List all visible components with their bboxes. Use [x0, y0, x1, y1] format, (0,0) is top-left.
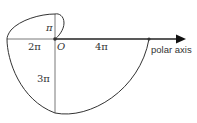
label-pi: π — [45, 22, 53, 33]
label-2pi: 2π — [28, 41, 41, 52]
arrowhead-icon — [176, 35, 186, 44]
spiral-diagram: π 2π O 4π 3π polar axis — [0, 0, 197, 123]
origin-label: O — [57, 41, 65, 52]
point-4pi — [147, 37, 150, 40]
label-3pi: 3π — [37, 73, 50, 84]
polar-axis-label: polar axis — [151, 44, 192, 55]
spiral-curve — [7, 14, 149, 114]
label-4pi: 4π — [95, 41, 108, 52]
